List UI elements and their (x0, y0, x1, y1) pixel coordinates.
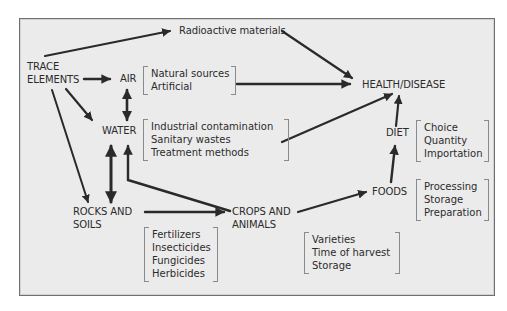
list-water-sources: Industrial contamination Sanitary wastes… (143, 119, 289, 161)
bracket-right (284, 119, 289, 161)
node-foods: FOODS (372, 186, 407, 199)
node-trace-line-1: TRACE (27, 61, 79, 74)
arrow-crops-to-foods (298, 192, 366, 212)
arrow-trace-to-radioactive (45, 31, 170, 56)
bracket-right (231, 66, 236, 95)
list-soil-inputs: Fertilizers Insecticides Fungicides Herb… (144, 227, 218, 282)
node-rocks-soils: ROCKS AND SOILS (73, 206, 132, 231)
node-rocks-line-2: SOILS (73, 219, 132, 232)
bracket-left (144, 227, 149, 282)
bracket-left (416, 120, 421, 162)
node-water: WATER (102, 125, 136, 138)
list-item: Insecticides (152, 241, 211, 254)
arrow-trace-to-rocks (52, 90, 88, 202)
arrow-trace-to-water (66, 89, 92, 120)
node-trace-line-2: ELEMENTS (27, 74, 79, 87)
list-air-sources: Natural sources Artificial (143, 66, 236, 95)
list-item: Importation (424, 147, 482, 160)
arrow-radioactive-to-health (282, 31, 352, 78)
node-crops-line-1: CROPS AND (232, 206, 290, 219)
list-item: Varieties (312, 233, 390, 246)
node-crops-line-2: ANIMALS (232, 219, 290, 232)
node-trace-elements: TRACE ELEMENTS (27, 61, 79, 86)
list-item: Industrial contamination (151, 120, 273, 133)
list-item: Time of harvest (312, 246, 390, 259)
node-radioactive: Radioactive materials (179, 25, 286, 38)
arrow-foods-to-diet (391, 146, 395, 182)
bracket-left (304, 232, 309, 274)
bracket-right (395, 232, 400, 274)
list-item: Natural sources (151, 67, 229, 80)
node-health-disease: HEALTH/DISEASE (362, 79, 445, 92)
bracket-right (484, 120, 489, 162)
list-food-factors: Processing Storage Preparation (416, 179, 489, 221)
node-rocks-line-1: ROCKS AND (73, 206, 132, 219)
arrow-diet-to-health (396, 96, 399, 126)
node-crops-animals: CROPS AND ANIMALS (232, 206, 290, 231)
list-item: Fertilizers (152, 228, 211, 241)
list-item: Storage (424, 193, 482, 206)
list-item: Storage (312, 259, 390, 272)
list-item: Herbicides (152, 267, 211, 280)
list-item: Sanitary wastes (151, 133, 273, 146)
list-item: Choice (424, 121, 482, 134)
list-item: Fungicides (152, 254, 211, 267)
bracket-left (416, 179, 421, 221)
bracket-right (484, 179, 489, 221)
list-item: Processing (424, 180, 482, 193)
list-item: Artificial (151, 80, 229, 93)
list-diet-factors: Choice Quantity Importation (416, 120, 489, 162)
node-diet: DIET (386, 127, 409, 140)
bracket-left (143, 119, 148, 161)
list-crop-factors: Varieties Time of harvest Storage (304, 232, 400, 274)
bracket-right (213, 227, 218, 282)
list-item: Treatment methods (151, 146, 273, 159)
bracket-left (143, 66, 148, 95)
node-air: AIR (120, 73, 136, 86)
arrow-water-to-health (282, 94, 392, 142)
list-item: Quantity (424, 134, 482, 147)
list-item: Preparation (424, 206, 482, 219)
